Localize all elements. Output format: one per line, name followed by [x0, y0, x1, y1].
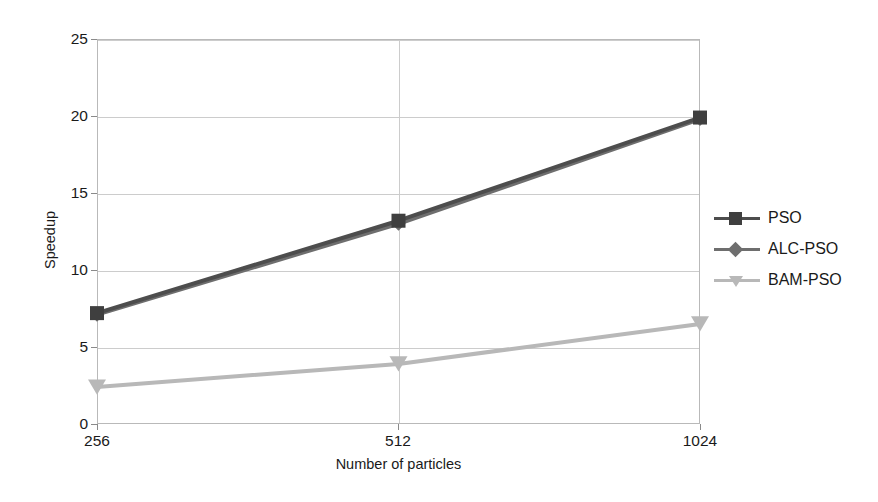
x-tick-mark-256	[97, 424, 98, 430]
series-line-bam-pso	[97, 324, 700, 387]
legend-entry-bam-pso[interactable]: BAM-PSO	[714, 267, 874, 292]
x-tick-label-1024: 1024	[640, 432, 760, 450]
legend-label-alc-pso: ALC-PSO	[768, 240, 838, 258]
square-marker-icon	[729, 212, 742, 225]
legend-entry-pso[interactable]: PSO	[714, 205, 874, 230]
x-tick-label-512: 512	[338, 432, 458, 450]
legend: PSO ALC-PSO BAM-PSO	[714, 205, 874, 298]
x-tick-mark-512	[398, 424, 399, 430]
y-tick-label-5: 5	[42, 338, 88, 356]
triangle-down-marker-icon	[729, 276, 743, 287]
y-tick-label-20: 20	[42, 107, 88, 125]
x-tick-mark-1024	[700, 424, 701, 430]
legend-label-pso: PSO	[768, 209, 802, 227]
datapoint-pso-512	[392, 214, 406, 228]
y-axis-title: Speedup	[42, 170, 58, 310]
legend-swatch-pso	[714, 210, 760, 226]
legend-swatch-bam-pso	[714, 272, 760, 288]
datapoint-pso-256	[90, 306, 104, 320]
x-axis-title: Number of particles	[97, 456, 700, 472]
data-series-layer	[97, 39, 700, 424]
legend-entry-alc-pso[interactable]: ALC-PSO	[714, 236, 874, 261]
diamond-marker-icon	[728, 241, 744, 257]
speedup-line-chart: 25 20 15 10 5 0 Speedup 256 512 1024 Num…	[0, 0, 878, 502]
y-tick-label-0: 0	[42, 415, 88, 433]
legend-label-bam-pso: BAM-PSO	[768, 271, 842, 289]
legend-swatch-alc-pso	[714, 241, 760, 257]
datapoint-pso-1024	[693, 111, 707, 125]
y-tick-label-25: 25	[42, 30, 88, 48]
x-tick-label-256: 256	[37, 432, 157, 450]
